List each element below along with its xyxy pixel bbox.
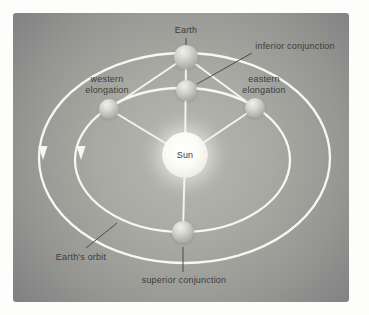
orbit-diagram-panel: Earth inferior conjunction western elong… [13, 13, 349, 302]
inner-orbit-direction-arrow-icon [77, 146, 86, 160]
western-elongation-label: western elongation [85, 74, 129, 96]
earths-orbit-label: Earth's orbit [56, 252, 106, 263]
western-elongation-label-line1: western [85, 74, 129, 85]
sun-label: Sun [177, 150, 194, 161]
earth-sphere [174, 45, 198, 69]
page-background: Earth inferior conjunction western elong… [0, 0, 369, 315]
inferior-conjunction-label: inferior conjunction [255, 41, 335, 52]
earth-label: Earth [175, 25, 198, 36]
western-elongation-label-line2: elongation [85, 85, 129, 96]
superior-conjunction-label: superior conjunction [142, 275, 227, 286]
inferior-conjunction-sphere [176, 80, 197, 101]
eastern-elongation-sphere [245, 98, 265, 118]
western-elongation-sphere [99, 99, 119, 119]
eastern-elongation-label: eastern elongation [242, 74, 286, 96]
eastern-elongation-label-line1: eastern [242, 74, 286, 85]
superior-conjunction-sphere [172, 221, 194, 243]
eastern-elongation-label-line2: elongation [242, 85, 286, 96]
